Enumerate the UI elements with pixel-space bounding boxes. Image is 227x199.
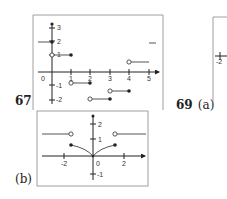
- graph-67: 012 345 321 -1-2: [33, 15, 163, 110]
- x-tick-labels-67: 012 345: [41, 75, 151, 82]
- svg-text:5: 5: [147, 75, 151, 82]
- svg-text:-1: -1: [97, 171, 103, 178]
- graphs-canvas: 012 345 321 -1-2: [0, 0, 227, 199]
- svg-text:1: 1: [98, 136, 102, 143]
- graph-69b: -202 21-1: [37, 111, 148, 186]
- svg-text:0: 0: [41, 75, 45, 82]
- y-tick-labels-67: 321 -1-2: [56, 24, 62, 103]
- svg-text:2: 2: [57, 38, 61, 45]
- svg-text:2: 2: [122, 160, 126, 167]
- svg-text:-2: -2: [216, 58, 222, 65]
- svg-text:2: 2: [88, 75, 92, 82]
- segments-69b: [42, 134, 146, 156]
- svg-text:-1: -1: [56, 82, 62, 89]
- graph-69a: -2: [213, 17, 227, 108]
- svg-text:0: 0: [96, 160, 100, 167]
- svg-text:-2: -2: [61, 160, 67, 167]
- svg-text:4: 4: [127, 75, 131, 82]
- svg-text:3: 3: [108, 75, 112, 82]
- svg-text:2: 2: [98, 121, 102, 128]
- svg-text:3: 3: [57, 24, 61, 31]
- segments-67: [38, 42, 156, 99]
- svg-text:-2: -2: [56, 96, 62, 103]
